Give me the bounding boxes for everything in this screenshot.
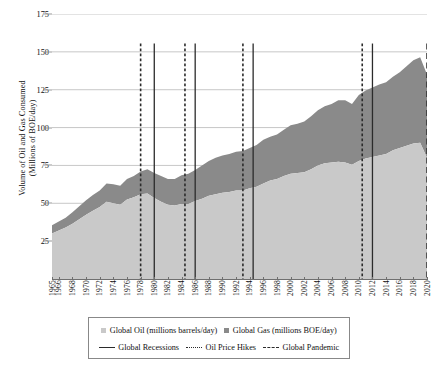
x-tick-mark <box>154 277 155 280</box>
x-tick-mark <box>250 277 251 280</box>
legend-swatch-icon <box>224 328 229 333</box>
x-tick-label: 1992 <box>232 280 241 296</box>
x-tick-mark <box>195 277 196 280</box>
y-tick-label: 125 <box>9 85 49 94</box>
x-tick-label: 1984 <box>177 280 186 296</box>
y-tick-mark <box>44 203 52 204</box>
x-tick-mark <box>182 277 183 280</box>
x-tick-label: 2012 <box>368 280 377 296</box>
x-tick-label: 1968 <box>68 280 77 296</box>
x-tick-mark <box>400 277 401 280</box>
y-tick-label: 150 <box>9 47 49 56</box>
x-tick-label: 1976 <box>123 280 132 296</box>
legend-item-label: Oil Price Hikes <box>206 343 256 352</box>
x-tick-mark <box>345 277 346 280</box>
legend-row-events: Global RecessionsOil Price HikesGlobal P… <box>89 339 349 356</box>
x-tick-mark <box>277 277 278 280</box>
x-tick-mark <box>72 277 73 280</box>
x-tick-label: 1996 <box>259 280 268 296</box>
x-tick-label: 2002 <box>300 280 309 296</box>
y-tick-mark <box>44 51 52 52</box>
x-tick-mark <box>222 277 223 280</box>
x-tick-mark <box>113 277 114 280</box>
x-tick-mark <box>236 277 237 280</box>
y-tick-label: 175 <box>9 10 49 19</box>
legend-item[interactable]: Global Recessions <box>99 343 179 352</box>
x-tick-mark <box>209 277 210 280</box>
y-tick-mark <box>44 89 52 90</box>
y-tick-label: 50 <box>9 199 49 208</box>
legend-dotted-line-icon <box>186 347 202 348</box>
x-tick-label: 1990 <box>218 280 227 296</box>
x-tick-mark <box>386 277 387 280</box>
chart-root: Volume of Oil and Gas Consumed (Millions… <box>0 0 435 368</box>
x-tick-label: 1988 <box>204 280 213 296</box>
x-tick-label: 1974 <box>109 280 118 296</box>
x-tick-mark <box>318 277 319 280</box>
x-tick-label: 1978 <box>136 280 145 296</box>
x-tick-label: 2014 <box>382 280 391 296</box>
x-tick-label: 2020 <box>423 280 432 296</box>
x-tick-mark <box>304 277 305 280</box>
x-tick-mark <box>59 277 60 280</box>
x-tick-mark <box>263 277 264 280</box>
y-tick-mark <box>44 127 52 128</box>
x-tick-mark <box>127 277 128 280</box>
y-tick-mark <box>44 241 52 242</box>
x-tick-label: 1994 <box>245 280 254 296</box>
plot-area <box>52 14 427 280</box>
x-tick-label: 1998 <box>273 280 282 296</box>
y-tick-label: 25 <box>9 237 49 246</box>
x-tick-mark <box>359 277 360 280</box>
y-tick-mark <box>44 14 52 15</box>
legend-item[interactable]: Global Oil (millions barrels/day) <box>101 326 217 335</box>
x-tick-label: 1982 <box>163 280 172 296</box>
legend-swatch-icon <box>101 328 106 333</box>
x-tick-label: 1972 <box>95 280 104 296</box>
legend-item[interactable]: Global Pandemic <box>263 343 339 352</box>
chart-legend: Global Oil (millions barrels/day)Global … <box>88 317 350 359</box>
x-tick-label: 2004 <box>313 280 322 296</box>
x-tick-label: 1980 <box>150 280 159 296</box>
area-chart-svg <box>52 14 427 279</box>
x-tick-label: 2016 <box>395 280 404 296</box>
y-tick-mark <box>44 165 52 166</box>
y-tick-label: 100 <box>9 123 49 132</box>
x-tick-mark <box>427 277 428 280</box>
x-tick-mark <box>100 277 101 280</box>
x-tick-label: 1966 <box>54 280 63 296</box>
x-tick-mark <box>168 277 169 280</box>
legend-item-label: Global Recessions <box>118 343 179 352</box>
x-tick-mark <box>372 277 373 280</box>
legend-item-label: Global Pandemic <box>283 343 340 352</box>
legend-item[interactable]: Oil Price Hikes <box>186 343 256 352</box>
x-tick-label: 2006 <box>327 280 336 296</box>
x-tick-label: 2000 <box>286 280 295 296</box>
legend-solid-line-icon <box>99 347 115 348</box>
x-tick-label: 2010 <box>354 280 363 296</box>
legend-row-series: Global Oil (millions barrels/day)Global … <box>89 322 349 339</box>
legend-item-label: Global Gas (millions BOE/day) <box>233 326 337 335</box>
x-tick-mark <box>86 277 87 280</box>
x-tick-label: 2018 <box>409 280 418 296</box>
legend-item[interactable]: Global Gas (millions BOE/day) <box>224 326 336 335</box>
x-tick-label: 1986 <box>191 280 200 296</box>
x-tick-mark <box>141 277 142 280</box>
x-tick-mark <box>52 277 53 280</box>
y-tick-label: 75 <box>9 161 49 170</box>
x-tick-mark <box>413 277 414 280</box>
x-tick-label: 1970 <box>82 280 91 296</box>
legend-dashed-line-icon <box>263 347 279 348</box>
x-tick-mark <box>291 277 292 280</box>
legend-item-label: Global Oil (millions barrels/day) <box>110 326 218 335</box>
x-tick-label: 2008 <box>341 280 350 296</box>
x-tick-mark <box>332 277 333 280</box>
